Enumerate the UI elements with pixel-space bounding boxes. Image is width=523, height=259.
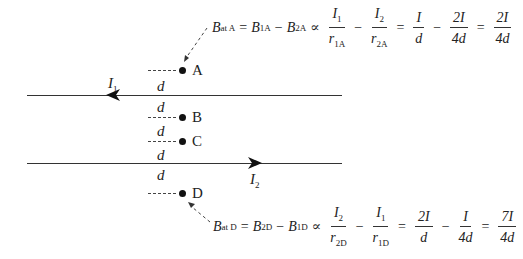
equation-a: Bat A = B1A − B2A ∝ I1 r1A − I2 r2A = I …: [212, 6, 516, 50]
point-a-label: A: [192, 63, 203, 78]
eq-a-frac-3: I d: [413, 10, 424, 47]
point-c-label: C: [192, 134, 202, 149]
spacing-d-4: d: [157, 148, 165, 163]
current-i1-label: I1: [108, 76, 118, 94]
eq-a-frac-2: I2 r2A: [371, 6, 387, 50]
eq-a-frac-4: 2I 4d: [450, 10, 468, 47]
current-i2-label: I2: [250, 172, 260, 190]
eq-d-frac-4: I 4d: [459, 209, 473, 246]
leader-d-arrowhead-icon: [188, 202, 195, 208]
eq-d-frac-1: I2 r2D: [330, 205, 346, 249]
spacing-d-5: d: [157, 168, 165, 183]
point-b-dot: [179, 114, 186, 121]
spacing-d-1: d: [157, 79, 165, 94]
point-d-dash: [148, 193, 176, 194]
point-d-label: D: [192, 186, 203, 201]
eq-d-frac-5: 7I 4d: [498, 209, 516, 246]
spacing-d-3: d: [157, 124, 165, 139]
eq-d-frac-2: I1 r1D: [373, 205, 389, 249]
leader-a-arrowhead-icon: [184, 55, 189, 62]
wire-2-arrow-icon: [248, 157, 262, 169]
point-d-dot: [179, 190, 186, 197]
eq-a-frac-1: I1 r1A: [329, 6, 345, 50]
eq-d-frac-3: 2I d: [415, 209, 433, 246]
equation-d: Bat D = B2D − B1D ∝ I2 r2D − I1 r1D = 2I…: [213, 205, 521, 249]
point-b-dash: [148, 117, 176, 118]
point-c-dash: [148, 141, 176, 142]
point-c-dot: [179, 138, 186, 145]
spacing-d-2: d: [157, 100, 165, 115]
point-a-dash: [148, 70, 176, 71]
point-b-label: B: [192, 110, 202, 125]
eq-a-frac-5: 2I 4d: [494, 10, 512, 47]
point-a-dot: [179, 67, 186, 74]
